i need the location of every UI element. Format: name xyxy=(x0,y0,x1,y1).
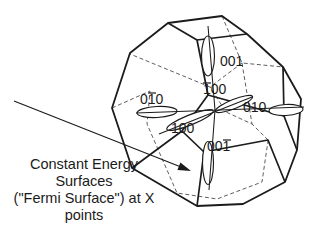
miller-label-100: 100 xyxy=(171,120,195,136)
fermi-ellipsoid-right xyxy=(269,104,304,117)
annotation-line-1: Constant Energy xyxy=(30,156,139,172)
miller-label-001: 001 xyxy=(220,53,244,69)
annotation-arrowhead xyxy=(177,163,191,172)
figure-canvas: 001 100 010 010 100 001 Constant Energy … xyxy=(0,0,309,236)
miller-label-010: 010 xyxy=(243,99,267,115)
annotation-line-2: Surfaces xyxy=(55,173,112,189)
fermi-ellipsoid-top xyxy=(202,36,215,76)
brillouin-zone-diagram: 001 100 010 010 100 001 Constant Energy … xyxy=(0,0,309,236)
annotation-line-4: points xyxy=(65,207,104,223)
annotation-text: Constant Energy Surfaces ("Fermi Surface… xyxy=(14,156,155,223)
annotation-line-3: ("Fermi Surface") at X xyxy=(14,190,155,206)
